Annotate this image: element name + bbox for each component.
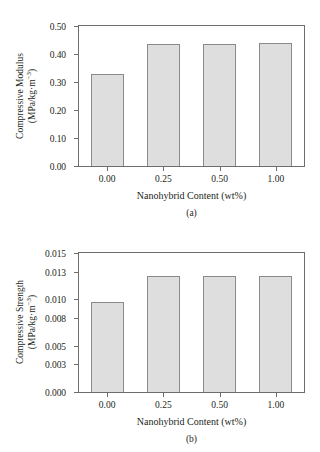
bar <box>147 276 180 392</box>
chart-panel-b: Compressive Strength (MPa/kg·m−3) 0.0000… <box>0 226 320 452</box>
x-tick-label-a-0: 0.00 <box>99 174 116 184</box>
x-tick-b-2 <box>220 392 221 397</box>
x-axis-title-b: Nanohybrid Content (wt%) <box>78 416 305 427</box>
y-tick-b-6: 0.015 <box>74 253 79 254</box>
y-tick-label-b-1: 0.003 <box>45 360 66 370</box>
y-tick-label-a-3: 0.30 <box>50 78 66 88</box>
y-axis-title-b: Compressive Strength (MPa/kg·m−3) <box>14 251 40 393</box>
y-tick-b-2: 0.005 <box>74 346 79 347</box>
y-tick-label-a-4: 0.40 <box>50 50 66 60</box>
x-tick-a-2 <box>220 166 221 171</box>
x-tick-a-1 <box>163 166 164 171</box>
bar <box>203 276 236 392</box>
y-tick-label-b-3: 0.008 <box>45 314 66 324</box>
y-tick-a-1: 0.10 <box>74 138 79 139</box>
y-tick-b-4: 0.010 <box>74 299 79 300</box>
y-tick-label-b-6: 0.015 <box>45 249 66 259</box>
bar <box>91 74 124 166</box>
x-tick-label-b-1: 0.25 <box>155 400 172 410</box>
y-tick-b-0: 0.000 <box>74 392 79 393</box>
y-tick-label-a-2: 0.20 <box>50 106 66 116</box>
y-tick-label-b-0: 0.000 <box>45 388 66 398</box>
y-axis-title-line1-b: Compressive Strength <box>15 280 27 364</box>
y-tick-a-3: 0.30 <box>74 82 79 83</box>
y-tick-b-1: 0.003 <box>74 364 79 365</box>
y-tick-label-b-2: 0.005 <box>45 342 66 352</box>
y-axis-title-a: Compressive Modulus (MPa/kg·m−3) <box>14 25 40 167</box>
y-axis-title-line2-b: (MPa/kg·m−3) <box>27 295 39 349</box>
bar <box>147 44 180 166</box>
bar-series-b <box>79 253 304 392</box>
y-axis-title-line2-a: (MPa/kg·m−3) <box>27 69 39 123</box>
figure-page: Compressive Modulus (MPa/kg·m−3) 0.000.1… <box>0 0 320 452</box>
plot-area-b: 0.0000.0030.0050.0080.0100.0130.0150.000… <box>78 252 305 393</box>
x-tick-a-0 <box>107 166 108 171</box>
x-tick-a-3 <box>276 166 277 171</box>
x-tick-b-0 <box>107 392 108 397</box>
x-tick-label-b-3: 1.00 <box>268 400 285 410</box>
x-tick-label-b-0: 0.00 <box>99 400 116 410</box>
x-tick-label-a-1: 0.25 <box>155 174 172 184</box>
y-tick-a-0: 0.00 <box>74 166 79 167</box>
y-tick-b-5: 0.013 <box>74 272 79 273</box>
y-tick-b-3: 0.008 <box>74 318 79 319</box>
y-tick-label-a-5: 0.50 <box>50 22 66 32</box>
y-tick-label-b-5: 0.013 <box>45 268 66 278</box>
bar <box>203 44 236 166</box>
chart-panel-a: Compressive Modulus (MPa/kg·m−3) 0.000.1… <box>0 0 320 226</box>
bar <box>259 276 292 392</box>
x-tick-label-a-2: 0.50 <box>211 174 228 184</box>
x-tick-b-1 <box>163 392 164 397</box>
y-tick-label-a-0: 0.00 <box>50 162 66 172</box>
plot-area-a: 0.000.100.200.300.400.500.000.250.501.00 <box>78 25 305 167</box>
y-tick-label-b-4: 0.010 <box>45 295 66 305</box>
x-tick-b-3 <box>276 392 277 397</box>
bar-series-a <box>79 26 304 166</box>
panel-caption-b: (b) <box>78 434 305 444</box>
y-tick-a-5: 0.50 <box>74 26 79 27</box>
x-tick-label-a-3: 1.00 <box>268 174 285 184</box>
x-axis-title-a: Nanohybrid Content (wt%) <box>78 190 305 201</box>
panel-caption-a: (a) <box>78 208 305 218</box>
bar <box>259 43 292 166</box>
y-tick-a-4: 0.40 <box>74 54 79 55</box>
bar <box>91 302 124 392</box>
x-tick-label-b-2: 0.50 <box>211 400 228 410</box>
y-tick-label-a-1: 0.10 <box>50 134 66 144</box>
y-tick-a-2: 0.20 <box>74 110 79 111</box>
y-axis-title-line1-a: Compressive Modulus <box>15 53 27 139</box>
